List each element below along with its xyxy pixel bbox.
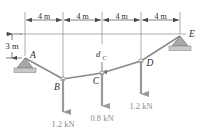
- dim-label-span-4: 4 m: [154, 12, 167, 21]
- load-label-C: 0.8 kN: [90, 113, 113, 123]
- node-label-B: B: [54, 82, 60, 92]
- dim-label-sag-subscript: C: [102, 55, 107, 61]
- load-label-D: 1.2 kN: [129, 101, 152, 111]
- support-roller-E: [169, 36, 191, 51]
- roller-triangle-E: [172, 36, 188, 46]
- ground-pad-E: [169, 46, 191, 51]
- dimension-group-sag: d C: [96, 49, 108, 72]
- ground-pad-A: [14, 68, 36, 73]
- cable-structure-figure: 4 m 4 m 4 m 4 m 3 m d C: [0, 0, 205, 135]
- dim-label-span-2: 4 m: [76, 12, 89, 21]
- dimension-group-height: 3 m: [6, 34, 23, 58]
- node-label-D: D: [146, 58, 154, 68]
- node-label-C: C: [93, 76, 100, 86]
- node-labels: A B C D E: [29, 29, 195, 92]
- support-pin-A: [14, 58, 36, 73]
- dim-label-span-1: 4 m: [38, 12, 51, 21]
- dim-label-height: 3 m: [6, 41, 19, 51]
- member-CD: [102, 61, 141, 73]
- dim-label-span-3: 4 m: [115, 12, 128, 21]
- node-label-A: A: [29, 50, 36, 60]
- dim-label-sag: d: [96, 49, 101, 59]
- dimension-group-top: 4 m 4 m 4 m 4 m: [20, 12, 186, 79]
- load-label-B: 1.2 kN: [51, 119, 74, 129]
- node-label-E: E: [188, 29, 195, 39]
